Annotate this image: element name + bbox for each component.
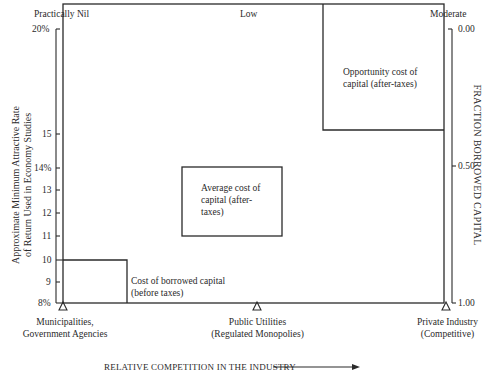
left-tick-label-12: 12: [42, 207, 52, 219]
left-axis-title-line2: of Return Used in Economy Studies: [22, 106, 34, 264]
top-label-nil: Practically Nil: [34, 8, 89, 20]
category-municipalities: Municipalities, Government Agencies: [10, 316, 120, 340]
right-axis-title: FRACTION BORROWED CAPITAL: [462, 40, 492, 290]
top-label-moderate: Moderate: [430, 8, 466, 20]
plot-frame: [63, 4, 444, 303]
category-public-utilities: Public Utilities (Regulated Monopolies): [200, 316, 315, 340]
region-label-borrowed: Cost of borrowed capital (before taxes): [131, 275, 225, 299]
arrow-head-icon: [352, 364, 360, 370]
left-tick-label-11: 11: [42, 230, 51, 242]
top-label-low: Low: [240, 8, 257, 20]
left-axis-title-line1: Approximate Minimum Attractive Rate: [10, 106, 22, 264]
right-tick-label-000: 0.00: [458, 23, 475, 35]
category-private-industry: Private Industry (Competitive): [400, 316, 495, 340]
left-tick-label-9: 9: [46, 276, 51, 288]
region-label-opportunity: Opportunity cost of capital (after-taxes…: [343, 66, 417, 90]
x-axis-title: RELATIVE COMPETITION IN THE INDUSTRY: [104, 361, 296, 373]
left-tick-label-20: 20%: [32, 23, 49, 35]
right-tick-label-100: 1.00: [458, 297, 475, 309]
region-borrowed-capital: [63, 260, 127, 303]
left-tick-label-10: 10: [42, 254, 52, 266]
left-tick-label-13: 13: [42, 184, 52, 196]
left-tick-label-15: 15: [42, 128, 52, 140]
left-axis-title: Approximate Minimum Attractive Rate of R…: [2, 60, 42, 310]
region-label-average: Average cost of capital (after- taxes): [201, 182, 260, 218]
